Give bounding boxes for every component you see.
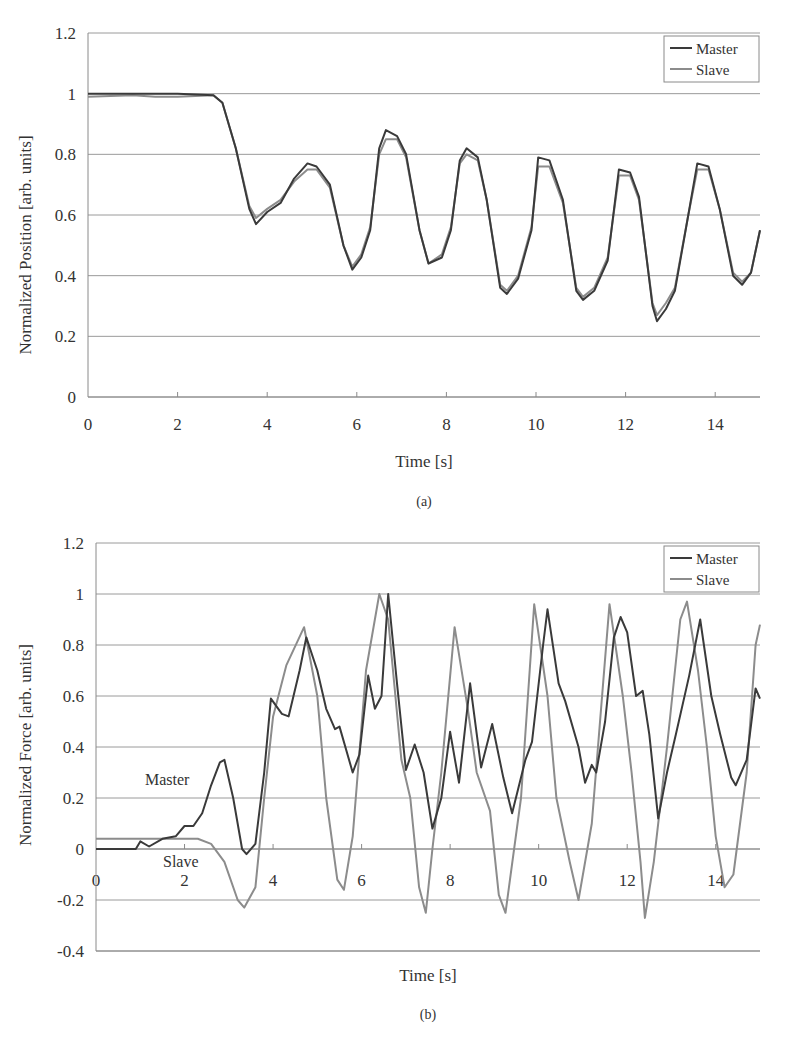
slave-position-line [88, 95, 760, 315]
y-tick-label: 0.2 [55, 327, 76, 346]
x-tick-label: 6 [353, 415, 362, 434]
y-tick-label: 1.2 [63, 534, 84, 553]
grid-lines [88, 33, 760, 397]
x-tick-label: 4 [263, 415, 272, 434]
force-chart: -0.4-0.200.20.40.60.811.2 02468101214 Ma… [16, 534, 760, 1023]
y-tick-label: 1 [76, 585, 85, 604]
slave-annotation: Slave [163, 853, 199, 870]
x-tick-label: 0 [84, 415, 93, 434]
y-axis-title: Normalized Force [arb. units] [16, 644, 35, 846]
y-axis-ticks: -0.4-0.200.20.40.60.811.2 [57, 534, 84, 961]
panel-caption: (b) [420, 1007, 437, 1023]
x-tick-label: 12 [619, 871, 636, 890]
y-tick-label: -0.4 [57, 942, 84, 961]
y-tick-label: 0.4 [55, 267, 77, 286]
y-tick-label: -0.2 [57, 891, 84, 910]
master-annotation: Master [145, 771, 190, 788]
legend-slave-label: Slave [696, 572, 730, 588]
x-tick-label: 8 [446, 871, 455, 890]
y-tick-label: 0.8 [63, 636, 84, 655]
y-tick-label: 1.2 [55, 24, 76, 43]
x-tick-label: 12 [617, 415, 634, 434]
x-tick-label: 10 [528, 415, 545, 434]
x-axis-title: Time [s] [399, 966, 456, 985]
y-axis-ticks: 00.20.40.60.811.2 [55, 24, 77, 407]
legend: Master Slave [664, 36, 759, 82]
y-tick-label: 0.8 [55, 145, 76, 164]
x-tick-label: 4 [269, 871, 278, 890]
y-tick-label: 0.6 [55, 206, 76, 225]
master-force-line [96, 594, 760, 854]
master-position-line [88, 94, 760, 322]
legend: Master Slave [664, 546, 759, 592]
y-tick-label: 0.2 [63, 789, 84, 808]
x-tick-label: 2 [173, 415, 182, 434]
legend-master-label: Master [696, 551, 738, 567]
legend-master-label: Master [696, 41, 738, 57]
legend-slave-label: Slave [696, 62, 730, 78]
position-chart: 00.20.40.60.811.2 02468101214 Normalized… [16, 24, 760, 510]
y-tick-label: 0 [76, 840, 85, 859]
x-tick-label: 10 [530, 871, 547, 890]
x-axis-ticks: 02468101214 [84, 392, 724, 434]
x-tick-label: 6 [357, 871, 366, 890]
panel-caption: (a) [416, 494, 432, 510]
x-tick-label: 8 [442, 415, 451, 434]
y-tick-label: 0.6 [63, 687, 84, 706]
y-axis-title: Normalized Position [arb. units] [16, 135, 35, 354]
y-tick-label: 0.4 [63, 738, 85, 757]
x-tick-label: 2 [180, 871, 189, 890]
figure: 00.20.40.60.811.2 02468101214 Normalized… [0, 0, 787, 1039]
y-tick-label: 1 [68, 85, 77, 104]
y-tick-label: 0 [68, 388, 77, 407]
x-tick-label: 14 [707, 415, 725, 434]
x-axis-title: Time [s] [395, 452, 452, 471]
